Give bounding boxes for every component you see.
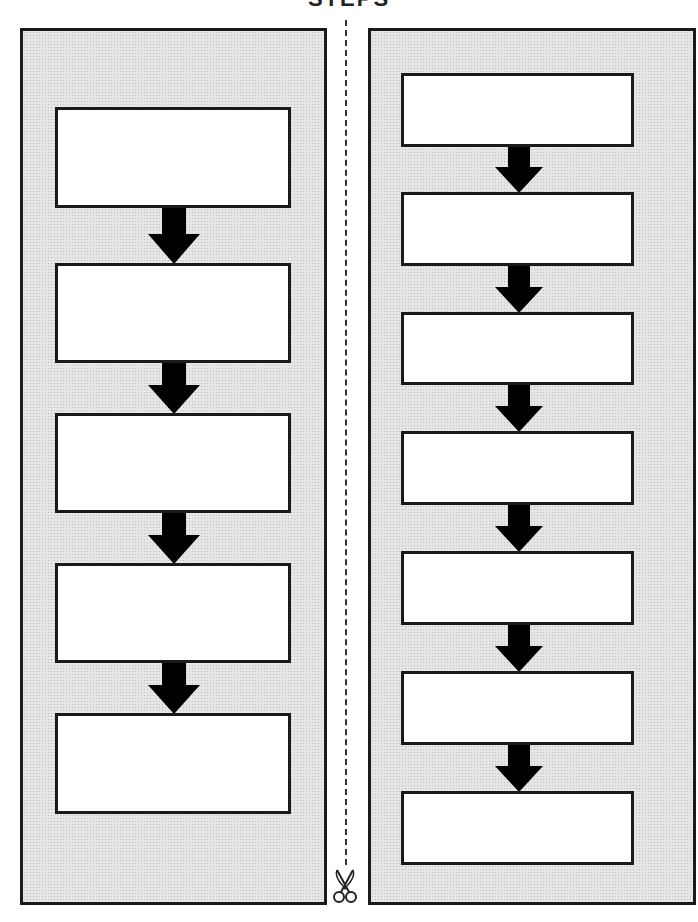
left-step-box-2[interactable] bbox=[55, 263, 291, 363]
left-step-box-3[interactable] bbox=[55, 413, 291, 513]
down-arrow-icon bbox=[495, 505, 543, 552]
right-step-box-6[interactable] bbox=[401, 671, 634, 745]
right-step-box-1[interactable] bbox=[401, 73, 634, 147]
down-arrow-icon bbox=[495, 147, 543, 193]
page-title: STEPS bbox=[0, 0, 698, 12]
down-arrow-icon bbox=[495, 745, 543, 792]
right-step-box-4[interactable] bbox=[401, 431, 634, 505]
right-step-box-5[interactable] bbox=[401, 551, 634, 625]
dashed-cut-line bbox=[345, 20, 347, 865]
down-arrow-icon bbox=[495, 625, 543, 672]
right-step-box-2[interactable] bbox=[401, 192, 634, 266]
down-arrow-icon bbox=[148, 363, 200, 414]
left-step-box-5[interactable] bbox=[55, 713, 291, 814]
right-step-box-7[interactable] bbox=[401, 791, 634, 865]
down-arrow-icon bbox=[148, 208, 200, 264]
scissors-icon bbox=[331, 868, 359, 904]
right-step-box-3[interactable] bbox=[401, 312, 634, 385]
down-arrow-icon bbox=[495, 385, 543, 432]
left-step-box-4[interactable] bbox=[55, 563, 291, 663]
down-arrow-icon bbox=[495, 266, 543, 313]
down-arrow-icon bbox=[148, 663, 200, 714]
down-arrow-icon bbox=[148, 513, 200, 564]
left-step-box-1[interactable] bbox=[55, 107, 291, 208]
